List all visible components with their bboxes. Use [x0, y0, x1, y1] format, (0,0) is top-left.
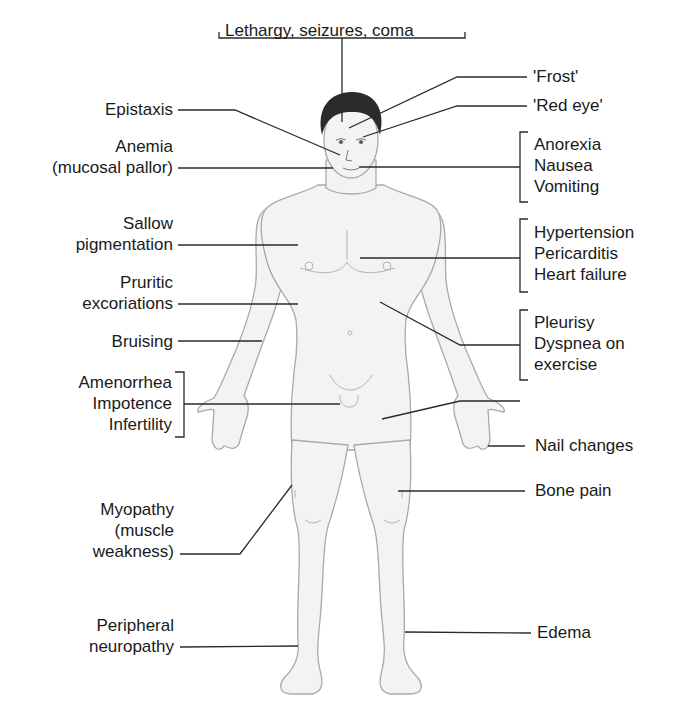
label-gi-symptoms: Anorexia Nausea Vomiting [534, 134, 601, 197]
body-figure [198, 102, 505, 694]
bracket-reproductive [175, 372, 184, 437]
line-edema [405, 632, 531, 633]
label-lethargy: Lethargy, seizures, coma [225, 20, 414, 41]
line-epistaxis [178, 110, 340, 155]
label-text: Anemia [52, 136, 173, 157]
bracket-pulmonary [520, 310, 528, 380]
label-text: Myopathy [93, 499, 174, 520]
torso [261, 185, 440, 450]
label-text: (mucosal pallor) [52, 157, 173, 178]
label-text: excoriations [82, 293, 173, 314]
label-anemia: Anemia (mucosal pallor) [52, 136, 173, 178]
label-text: Amenorrhea [78, 372, 172, 393]
label-pruritic-excoriations: Pruritic excoriations [82, 272, 173, 314]
label-text: Pruritic [82, 272, 173, 293]
label-pulmonary: Pleurisy Dyspnea on exercise [534, 312, 625, 375]
line-redeye [363, 106, 527, 137]
label-text: Lethargy, seizures, coma [225, 20, 414, 41]
bracket-gi [520, 132, 528, 202]
label-text: Infertility [78, 414, 172, 435]
label-text: weakness) [93, 541, 174, 562]
label-reproductive: Amenorrhea Impotence Infertility [78, 372, 172, 435]
label-text: Anorexia [534, 134, 601, 155]
label-text: Edema [537, 622, 591, 643]
label-text: Pericarditis [534, 243, 634, 264]
right-leg [354, 440, 421, 694]
label-bone-pain: Bone pain [535, 480, 612, 501]
label-text: Peripheral [89, 615, 174, 636]
label-text: 'Frost' [533, 66, 578, 87]
label-text: pigmentation [76, 234, 173, 255]
label-text: Nail changes [535, 435, 633, 456]
label-frost: 'Frost' [533, 66, 578, 87]
line-myopathy [180, 485, 292, 554]
label-text: Heart failure [534, 264, 634, 285]
label-cardiac: Hypertension Pericarditis Heart failure [534, 222, 634, 285]
label-nail-changes: Nail changes [535, 435, 633, 456]
label-text: Vomiting [534, 176, 601, 197]
label-text: Nausea [534, 155, 601, 176]
label-text: exercise [534, 354, 625, 375]
label-text: Epistaxis [105, 99, 173, 120]
left-leg [281, 440, 348, 694]
label-peripheral-neuropathy: Peripheral neuropathy [89, 615, 174, 657]
label-text: Hypertension [534, 222, 634, 243]
label-text: neuropathy [89, 636, 174, 657]
label-bruising: Bruising [112, 331, 173, 352]
label-edema: Edema [537, 622, 591, 643]
label-text: Sallow [76, 213, 173, 234]
diagram-canvas: Lethargy, seizures, coma Epistaxis Anemi… [0, 0, 673, 702]
label-text: Bone pain [535, 480, 612, 501]
bracket-cardiac [520, 219, 528, 292]
label-text: Impotence [78, 393, 172, 414]
label-text: 'Red eye' [533, 95, 603, 116]
line-neuropathy [180, 646, 298, 647]
label-text: Bruising [112, 331, 173, 352]
label-text: (muscle [93, 520, 174, 541]
label-red-eye: 'Red eye' [533, 95, 603, 116]
label-epistaxis: Epistaxis [105, 99, 173, 120]
label-text: Pleurisy [534, 312, 625, 333]
label-myopathy: Myopathy (muscle weakness) [93, 499, 174, 562]
label-sallow-pigmentation: Sallow pigmentation [76, 213, 173, 255]
label-text: Dyspnea on [534, 333, 625, 354]
